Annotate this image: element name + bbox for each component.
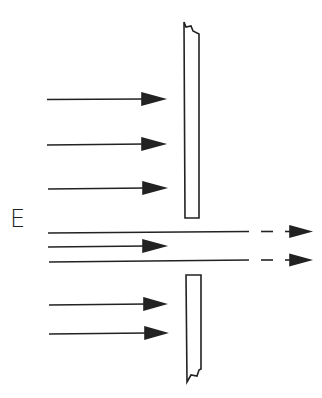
field-label: E bbox=[10, 205, 25, 233]
upper-plate bbox=[184, 22, 199, 218]
field-arrow bbox=[48, 182, 165, 194]
transmitted-arrow bbox=[48, 226, 310, 237]
field-arrow bbox=[47, 93, 164, 105]
field-arrow bbox=[49, 298, 165, 310]
field-diagram bbox=[0, 0, 322, 398]
field-arrow bbox=[47, 138, 164, 150]
field-arrow bbox=[48, 240, 165, 252]
lower-plate bbox=[186, 275, 201, 382]
field-arrow bbox=[49, 327, 166, 339]
transmitted-arrow bbox=[49, 255, 310, 266]
